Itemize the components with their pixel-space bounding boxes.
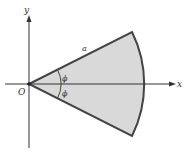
radius-label: a	[82, 44, 87, 53]
lower-angle-label: ϕ	[62, 89, 68, 98]
origin-label: O	[18, 87, 26, 97]
y-axis-arrow-icon	[27, 15, 32, 22]
origin-point	[27, 82, 31, 86]
sector-diagram: y x O a ϕ ϕ	[0, 0, 188, 152]
upper-angle-label: ϕ	[62, 74, 68, 83]
x-axis-arrow-icon	[169, 82, 176, 87]
x-axis-label: x	[177, 79, 182, 89]
y-axis-label: y	[23, 5, 30, 15]
